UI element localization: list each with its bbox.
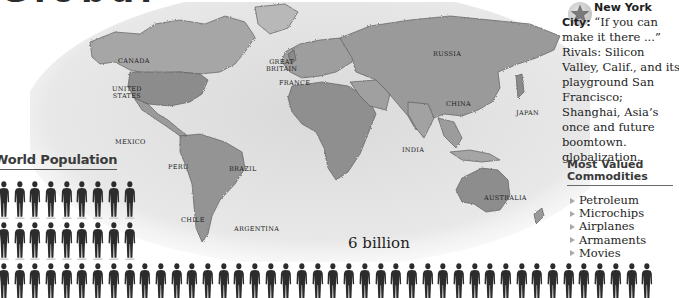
person-silhouette-icon (576, 262, 592, 298)
person-silhouette-icon (435, 262, 451, 298)
population-row-1 (0, 180, 137, 220)
new-york-blurb: New York City: “If you can make it there… (562, 0, 679, 165)
commodity-label: Armaments (579, 234, 646, 247)
person-silhouette-icon (43, 180, 59, 220)
person-silhouette-icon (59, 180, 75, 220)
map-label-russia: RUSSIA (433, 51, 461, 58)
person-silhouette-icon (12, 262, 28, 298)
person-silhouette-icon (624, 262, 640, 298)
person-silhouette-icon (514, 262, 530, 298)
map-label-france: FRANCE (279, 80, 310, 87)
person-silhouette-icon (467, 262, 483, 298)
map-label-brazil: BRAZIL (229, 166, 257, 173)
person-silhouette-icon (90, 262, 106, 298)
person-silhouette-icon (27, 262, 43, 298)
map-label-chile: CHILE (181, 217, 205, 224)
bullet-arrow-icon (570, 250, 575, 256)
person-silhouette-icon (200, 262, 216, 298)
person-silhouette-icon (263, 262, 279, 298)
bullet-arrow-icon (570, 237, 575, 243)
person-silhouette-icon (74, 262, 90, 298)
person-silhouette-icon (388, 262, 404, 298)
person-silhouette-icon (90, 180, 106, 220)
person-silhouette-icon (294, 262, 310, 298)
map-label-australia: AUSTRALIA (484, 195, 527, 202)
person-silhouette-icon (498, 262, 514, 298)
world-population-heading: World Population (0, 152, 117, 170)
map-label-great-britain: GREAT BRITAIN (266, 59, 297, 73)
person-silhouette-icon (27, 180, 43, 220)
person-silhouette-icon (43, 262, 59, 298)
person-silhouette-icon (27, 221, 43, 261)
person-silhouette-icon (451, 262, 467, 298)
person-silhouette-icon (122, 262, 138, 298)
person-silhouette-icon (341, 262, 357, 298)
person-silhouette-icon (0, 221, 12, 261)
person-silhouette-icon (106, 221, 122, 261)
person-silhouette-icon (0, 262, 12, 298)
person-silhouette-icon (325, 262, 341, 298)
person-silhouette-icon (231, 262, 247, 298)
bullet-arrow-icon (570, 211, 575, 217)
map-label-japan: JAPAN (516, 110, 539, 117)
bullet-arrow-icon (570, 198, 575, 204)
commodities-heading: Most Valued Commodities (567, 159, 673, 186)
person-silhouette-icon (545, 262, 561, 298)
person-silhouette-icon (12, 221, 28, 261)
person-silhouette-icon (404, 262, 420, 298)
map-label-argentina: ARGENTINA (234, 226, 279, 233)
person-silhouette-icon (184, 262, 200, 298)
population-row-3 (0, 262, 655, 298)
person-silhouette-icon (357, 262, 373, 298)
commodity-label: Airplanes (579, 220, 635, 233)
person-silhouette-icon (529, 262, 545, 298)
map-label-mexico: MEXICO (115, 139, 146, 146)
person-silhouette-icon (122, 221, 138, 261)
person-silhouette-icon (216, 262, 232, 298)
commodity-label: Movies (579, 247, 621, 260)
person-silhouette-icon (0, 180, 12, 220)
population-count-label: 6 billion (348, 234, 410, 252)
person-silhouette-icon (169, 262, 185, 298)
bullet-arrow-icon (570, 224, 575, 230)
map-label-china: CHINA (446, 101, 471, 108)
person-silhouette-icon (310, 262, 326, 298)
person-silhouette-icon (90, 221, 106, 261)
person-silhouette-icon (59, 262, 75, 298)
person-silhouette-icon (592, 262, 608, 298)
person-silhouette-icon (74, 180, 90, 220)
commodity-item: Airplanes (570, 220, 646, 233)
person-silhouette-icon (278, 262, 294, 298)
person-silhouette-icon (122, 180, 138, 220)
person-silhouette-icon (608, 262, 624, 298)
person-silhouette-icon (420, 262, 436, 298)
person-silhouette-icon (137, 262, 153, 298)
commodity-item: Armaments (570, 234, 646, 247)
commodity-item: Movies (570, 247, 646, 260)
person-silhouette-icon (74, 221, 90, 261)
map-label-canada: CANADA (118, 58, 150, 65)
map-label-peru: PERU (168, 164, 189, 171)
map-label-india: INDIA (402, 147, 424, 154)
person-silhouette-icon (639, 262, 655, 298)
textbook-page: Globalization (0, 0, 679, 298)
person-silhouette-icon (59, 221, 75, 261)
person-silhouette-icon (43, 221, 59, 261)
person-silhouette-icon (12, 180, 28, 220)
person-silhouette-icon (106, 180, 122, 220)
person-silhouette-icon (561, 262, 577, 298)
person-silhouette-icon (106, 262, 122, 298)
commodities-heading-line2: Commodities (567, 171, 673, 183)
commodities-list: Petroleum Microchips Airplanes Armaments… (570, 194, 646, 260)
person-silhouette-icon (247, 262, 263, 298)
map-label-united-states: UNITED STATES (112, 86, 142, 100)
person-silhouette-icon (153, 262, 169, 298)
person-silhouette-icon (482, 262, 498, 298)
person-silhouette-icon (373, 262, 389, 298)
rivals-text: Rivals: Silicon Valley, Calif., and its … (562, 45, 679, 89)
population-row-2 (0, 221, 137, 261)
